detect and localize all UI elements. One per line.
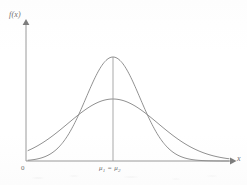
curve-narrow-sigma xyxy=(28,57,229,161)
figure-canvas: f(x) x 0 μ1 = μ2 xyxy=(0,0,247,185)
x-axis-label: x xyxy=(237,155,241,163)
mean-subscript-2: 2 xyxy=(118,168,121,173)
x-axis-arrowhead xyxy=(230,158,237,165)
normal-distribution-plot xyxy=(0,0,247,185)
mean-equals-sign: = xyxy=(105,164,114,172)
mean-equality-label: μ1 = μ2 xyxy=(99,165,121,172)
origin-label: 0 xyxy=(21,165,25,172)
curve-wide-sigma xyxy=(28,99,229,159)
y-axis-arrowhead xyxy=(23,19,30,25)
y-axis-label: f(x) xyxy=(9,11,21,19)
